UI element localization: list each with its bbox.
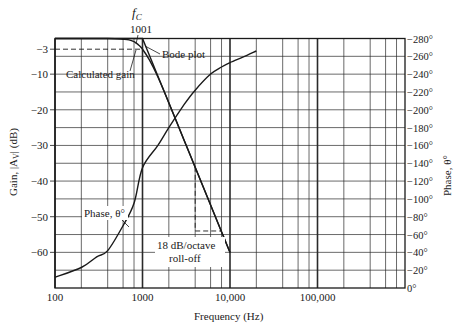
y-right-tick-label: −100°: [407, 194, 433, 205]
y-axis-label-right: Phase, θ°: [441, 155, 453, 196]
y-tick-label: −10: [31, 68, 49, 80]
y-right-tick-label: −60°: [407, 230, 428, 241]
y-right-tick-label: −280°: [407, 34, 433, 45]
fc-label: fC: [132, 5, 143, 22]
x-axis-ticks: 100100010,000100,000: [47, 291, 336, 303]
right-axis-ticks: −280°−260°−240°−220°−200°−180°−160°−140°…: [407, 34, 433, 295]
rolloff-label-line2: roll-off: [169, 252, 201, 264]
x-tick-label: 100,000: [300, 291, 336, 303]
y-right-tick-label: 0°: [407, 283, 416, 294]
y-tick-label: −30: [31, 139, 49, 151]
y-right-tick-label: −240°: [407, 69, 433, 80]
bode-chart: −3−10−20−30−40−50−60 −280°−260°−240°−220…: [0, 0, 458, 329]
y-axis-label-left: Gain, |AV| (dB): [7, 128, 21, 196]
y-tick-label: −3: [36, 43, 48, 55]
y-right-tick-label: −20°: [407, 265, 428, 276]
y-tick-label: −50: [31, 211, 49, 223]
y-right-tick-label: −80°: [407, 212, 428, 223]
rolloff-label-line1: 18 dB/octave: [157, 239, 215, 251]
left-axis-ticks: −3−10−20−30−40−50−60: [31, 43, 55, 258]
y-right-tick-label: −220°: [407, 87, 433, 98]
y-tick-label: −40: [31, 175, 49, 187]
fc-value-label: 1001: [130, 23, 152, 35]
y-right-tick-label: −140°: [407, 158, 433, 169]
phase-label: Phase, θ°: [84, 207, 125, 219]
x-tick-label: 10,000: [215, 291, 246, 303]
x-axis-label: Frequency (Hz): [194, 310, 264, 323]
x-tick-label: 100: [47, 291, 64, 303]
y-right-tick-label: −260°: [407, 51, 433, 62]
calculated-gain-label: Calculated gain: [66, 68, 135, 80]
y-right-tick-label: −180°: [407, 123, 433, 134]
y-tick-label: −20: [31, 104, 49, 116]
fc-leader-1: [136, 35, 138, 44]
y-right-tick-label: −200°: [407, 105, 433, 116]
y-right-tick-label: −120°: [407, 176, 433, 187]
y-tick-label: −60: [31, 246, 49, 258]
x-tick-label: 1000: [132, 291, 155, 303]
bode-plot-label: Bode plot: [162, 48, 205, 60]
y-right-tick-label: −160°: [407, 140, 433, 151]
y-right-tick-label: −40°: [407, 247, 428, 258]
